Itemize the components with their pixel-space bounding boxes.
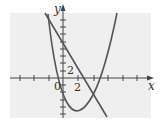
- y-tick-label-2: 2: [67, 64, 74, 77]
- y-axis-arrow-icon: [61, 4, 66, 11]
- y-axis-label: y: [53, 2, 61, 16]
- plot-background: [10, 13, 151, 118]
- origin-label: 0: [54, 80, 61, 93]
- graph: y x 0 2 2: [0, 0, 161, 121]
- x-axis-label: x: [148, 79, 155, 93]
- x-tick-label-2: 2: [74, 81, 81, 94]
